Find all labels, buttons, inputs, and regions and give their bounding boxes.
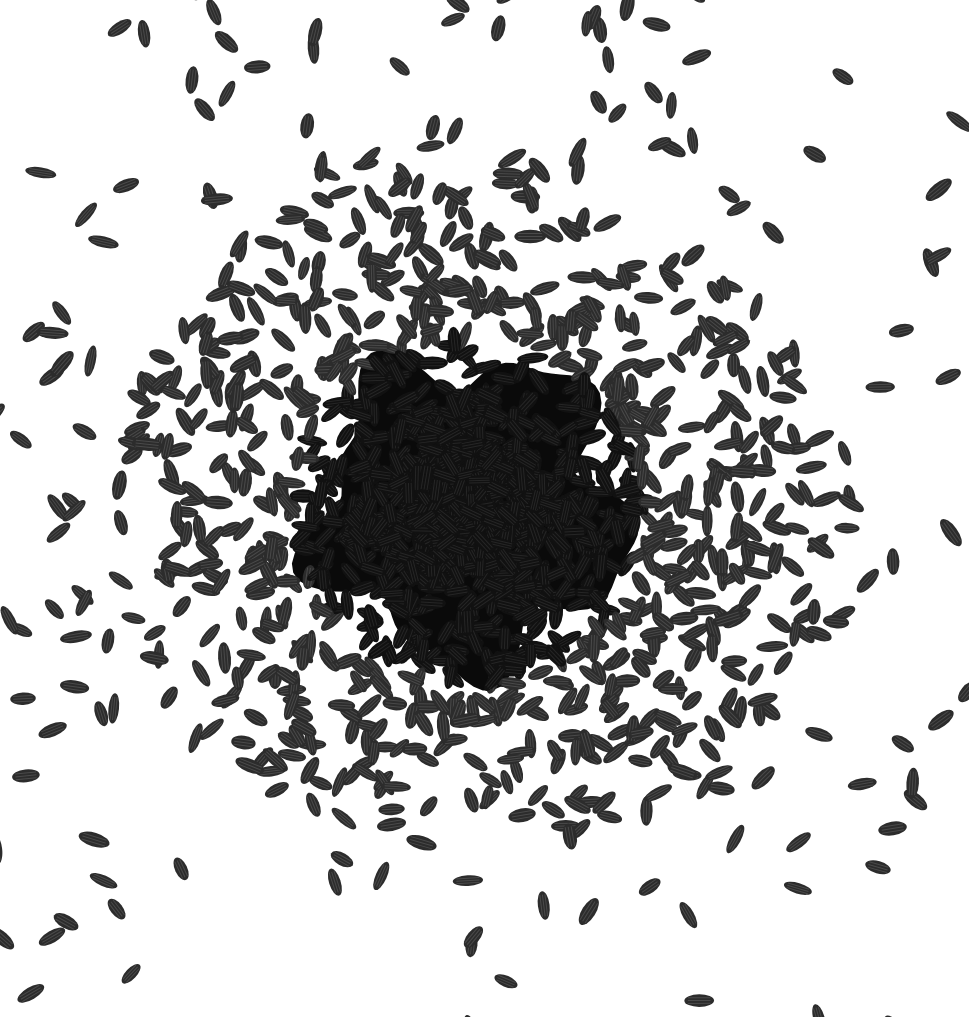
rice-grains-photo: Black rice grains scattered on a white b… — [0, 0, 969, 1017]
rice-grains-canvas — [0, 0, 969, 1017]
